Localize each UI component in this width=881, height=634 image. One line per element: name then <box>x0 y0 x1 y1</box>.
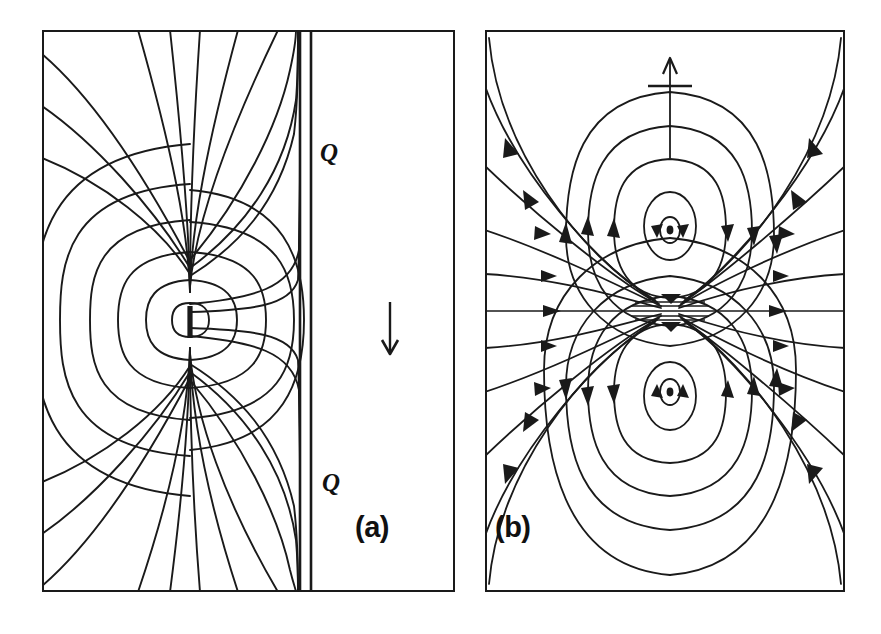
open-right-d2 <box>679 316 845 392</box>
open-left-d2 <box>485 316 661 392</box>
open-left-u5 <box>489 38 655 300</box>
field-line-ul-1 <box>42 158 190 274</box>
two-panel-field-figure: (a) (b) Q Q <box>0 0 881 634</box>
open-right-d5 <box>685 322 841 584</box>
dipole-loop-r4 <box>190 222 294 418</box>
panel-b-tag: (b) <box>495 513 531 542</box>
charge-label-top: Q <box>320 140 338 165</box>
field-line-dl-3 <box>42 378 190 586</box>
axis-arrow-up <box>648 58 692 158</box>
open-left-d5 <box>489 322 655 584</box>
open-right-u2 <box>679 230 845 306</box>
dipole-loop-l6 <box>42 144 190 496</box>
panel-a-tag: (a) <box>355 513 389 542</box>
field-line-ul-3 <box>42 54 190 262</box>
direction-arrow-down <box>382 302 398 354</box>
lower-outer-loop-right <box>670 238 796 575</box>
dipole-loop-r2 <box>190 280 237 360</box>
dipole-loop-r3 <box>190 252 266 388</box>
open-left-u2 <box>485 230 661 306</box>
open-right-u4 <box>683 86 845 302</box>
vortex-center-upper <box>667 226 674 235</box>
dipole-loop-l2 <box>146 280 190 360</box>
field-line-dn-5 <box>190 354 278 592</box>
panel-a-field-lines <box>42 30 455 592</box>
dipole-loop-r1 <box>190 303 209 337</box>
charge-label-bottom: Q <box>322 470 340 495</box>
panel-b <box>485 30 845 592</box>
open-right-d4 <box>683 320 845 536</box>
open-right-u5 <box>685 38 841 300</box>
field-line-dl-1 <box>42 366 190 482</box>
dipole-loop-l3 <box>118 252 190 388</box>
vortex-center-lower <box>667 388 674 397</box>
panel-b-streamlines <box>485 30 845 592</box>
field-line-dr-3 <box>190 380 296 592</box>
dipole-loop-l4 <box>90 220 190 420</box>
field-line-up-5 <box>190 30 278 286</box>
dipole-loop-l1 <box>172 303 190 337</box>
dipole-source-marker <box>187 306 192 338</box>
field-line-ur-3 <box>190 30 296 260</box>
panel-a <box>42 30 455 592</box>
